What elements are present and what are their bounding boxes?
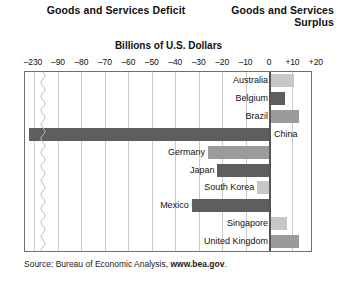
bar-united-kingdom [271, 235, 299, 248]
bar-australia [271, 74, 294, 87]
bar-brazil [271, 110, 299, 123]
x-tick-zero0: 0 [267, 57, 272, 67]
bar-belgium [271, 92, 285, 105]
chart-figure: Goods and Services Deficit Goods and Ser… [0, 0, 337, 283]
x-tick-neg90: –90 [51, 57, 65, 67]
chart-row: Singapore [25, 215, 311, 233]
source-note: Source: Bureau of Economic Analysis, www… [24, 259, 227, 269]
x-tick-pos10: +10 [285, 57, 299, 67]
surplus-heading-line2: Surplus [294, 16, 334, 28]
chart-row: Australia [25, 72, 311, 90]
surplus-heading-line1: Goods and Services [231, 4, 334, 16]
chart-row: China [25, 126, 311, 144]
bar-japan [217, 164, 269, 177]
bar-label-brazil: Brazil [245, 110, 268, 123]
x-tick-neg50: –50 [145, 57, 159, 67]
surplus-heading: Goods and Services Surplus [218, 4, 334, 28]
bar-china [29, 128, 269, 141]
bar-label-australia: Australia [233, 74, 268, 87]
chart-row: United Kingdom [25, 233, 311, 251]
plot-area: AustraliaBelgiumBrazilChinaGermanyJapanS… [24, 71, 312, 252]
chart-row: Japan [25, 162, 311, 180]
x-tick-neg70: –70 [98, 57, 112, 67]
bar-label-germany: Germany [168, 146, 205, 159]
chart-row: Germany [25, 144, 311, 162]
bar-label-belgium: Belgium [235, 92, 268, 105]
x-tick-neg80: –80 [74, 57, 88, 67]
chart-row: Mexico [25, 197, 311, 215]
bar-label-japan: Japan [190, 164, 215, 177]
bar-label-china: China [274, 128, 298, 141]
bar-label-mexico: Mexico [160, 199, 189, 212]
source-site: www.bea.gov [170, 259, 224, 269]
x-tick-neg20: –20 [215, 57, 229, 67]
x-tick-pos20: +20 [309, 57, 323, 67]
x-tick-neg30: –30 [192, 57, 206, 67]
x-axis-tick-labels: –230–90–80–70–60–50–40–30–20–100+10+20 [0, 57, 337, 70]
bar-mexico [192, 199, 269, 212]
axis-units-label: Billions of U.S. Dollars [0, 40, 337, 51]
bar-label-united-kingdom: United Kingdom [204, 235, 268, 248]
chart-row: Brazil [25, 108, 311, 126]
deficit-heading: Goods and Services Deficit [26, 4, 206, 16]
axis-break-squiggle [39, 72, 48, 251]
source-prefix: Source: Bureau of Economic Analysis, [24, 259, 170, 269]
x-tick-neg60: –60 [121, 57, 135, 67]
bar-singapore [271, 217, 287, 230]
chart-row: Belgium [25, 90, 311, 108]
x-tick-neg40: –40 [168, 57, 182, 67]
x-tick-neg230: –230 [24, 57, 43, 67]
bar-germany [208, 146, 269, 159]
chart-row: South Korea [25, 179, 311, 197]
source-suffix: . [224, 259, 226, 269]
bar-south-korea [257, 181, 269, 194]
x-tick-neg10: –10 [239, 57, 253, 67]
bar-label-south-korea: South Korea [204, 181, 254, 194]
bar-label-singapore: Singapore [227, 217, 268, 230]
